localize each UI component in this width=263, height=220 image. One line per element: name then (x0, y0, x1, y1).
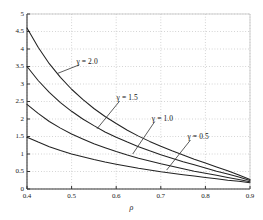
y-tick-label: 2 (21, 115, 24, 123)
y-tick-label: 1.5 (16, 132, 24, 140)
y-tick-label: 5 (21, 10, 24, 18)
x-tick-label: 0.7 (149, 192, 173, 200)
y-tick-label: 3 (21, 80, 24, 88)
x-tick-label: 0.6 (104, 192, 128, 200)
curve-label-gamma-1-5: γ = 1.5 (117, 93, 138, 102)
figure-container: 00.511.522.533.544.55 0.40.50.60.70.80.9… (0, 0, 263, 220)
x-tick-label: 0.5 (60, 192, 84, 200)
data-curves (27, 28, 250, 183)
y-tick-label: 2.5 (16, 97, 24, 105)
x-tick-label: 0.9 (238, 192, 262, 200)
y-gridlines (27, 14, 250, 189)
x-gridlines (27, 14, 250, 189)
curve-label-gamma-2: γ = 2.0 (76, 57, 97, 66)
axis-ticks (27, 14, 250, 189)
y-tick-label: 4.5 (16, 27, 24, 35)
y-tick-label: 1 (21, 150, 24, 158)
curve-label-gamma-1: γ = 1.0 (152, 114, 173, 123)
x-tick-label: 0.8 (193, 192, 217, 200)
y-tick-label: 4 (21, 45, 24, 53)
y-tick-label: 0.5 (16, 167, 24, 175)
x-axis-title: ρ (0, 203, 263, 212)
curve-label-gamma-0-5: γ = 0.5 (187, 132, 208, 141)
axes-frame (27, 14, 250, 189)
x-tick-label: 0.4 (15, 192, 39, 200)
y-tick-label: 3.5 (16, 62, 24, 70)
chart-plot-area (0, 0, 263, 220)
